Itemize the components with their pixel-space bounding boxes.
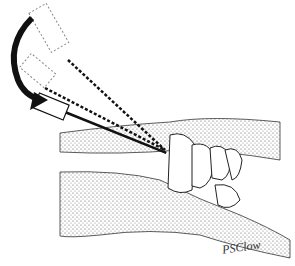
wrist-injection-drawing [0, 0, 295, 266]
